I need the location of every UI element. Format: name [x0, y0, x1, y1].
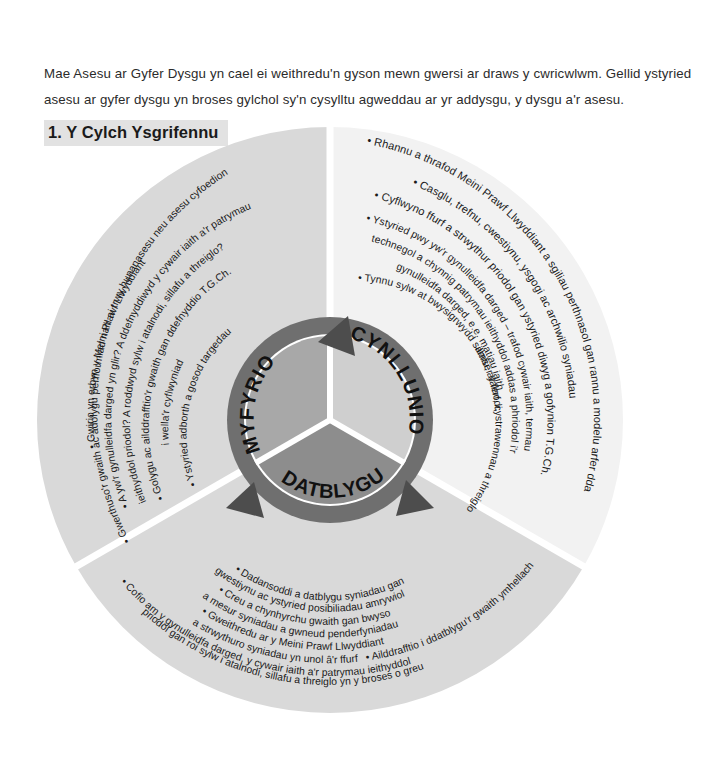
page-root: Mae Asesu ar Gyfer Dysgu yn cael ei weit… — [0, 0, 728, 784]
cycle-diagram-svg: CYNLLUNIO MYFYRIO DATBLYGU — [30, 120, 698, 765]
intro-paragraph: Mae Asesu ar Gyfer Dysgu yn cael ei weit… — [44, 61, 694, 113]
cycle-diagram: CYNLLUNIO MYFYRIO DATBLYGU — [30, 120, 698, 765]
